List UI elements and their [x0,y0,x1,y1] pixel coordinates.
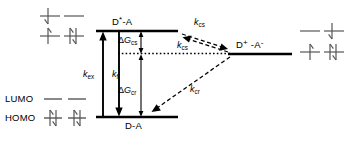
delta-g-cr-double-arrow [139,54,144,117]
right-orbital-electrons [310,23,336,60]
homo-label: HOMO [5,113,35,123]
right-orbital-diagram [300,31,344,52]
energy-label-delta-g-cr: ΔGcr [118,86,136,95]
rate-label-k-ex: kex [83,70,94,79]
k-ex-arrow [99,32,106,118]
left-orbital-diagram [40,16,84,36]
rate-label-k-cs-upper: kcs [194,18,205,27]
rate-label-k-cs-lower: kcs [177,41,188,50]
state-label-ground: D-A [125,121,142,131]
left-orbital-electrons [45,8,76,44]
state-label-charge-separated: D+ -A- [236,40,264,50]
energy-label-delta-g-cs: ΔGcs [118,36,138,45]
energy-level-diagram: D*-A D-A D+ -A- LUMO HOMO kex kf kcs kcs… [0,0,359,145]
lumo-label: LUMO [5,94,33,104]
rate-label-k-cr: kcr [190,85,200,94]
rate-label-k-f: kf [112,70,118,79]
delta-g-cs-double-arrow [139,31,144,54]
state-label-excited: D*-A [112,17,132,27]
diagram-canvas [0,0,359,145]
